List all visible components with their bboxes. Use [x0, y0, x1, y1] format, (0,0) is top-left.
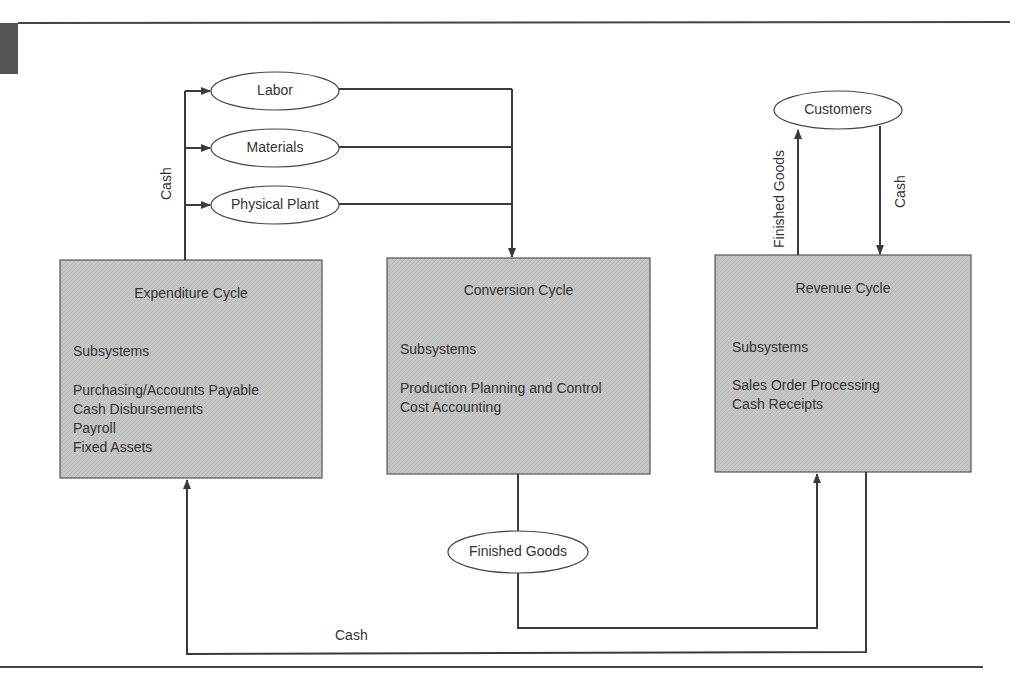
subsystem-item: Cost Accounting	[400, 398, 602, 417]
revenue-cycle-title: Revenue Cycle	[715, 280, 971, 296]
expenditure-subsystem-list: Purchasing/Accounts Payable Cash Disburs…	[73, 381, 259, 457]
customers-label: Customers	[774, 101, 902, 117]
subsystem-item: Fixed Assets	[73, 438, 259, 457]
conversion-subsystem-list: Production Planning and Control Cost Acc…	[400, 379, 602, 417]
conversion-cycle-title: Conversion Cycle	[387, 282, 650, 298]
top-rule	[18, 22, 1010, 23]
expenditure-cycle-title: Expenditure Cycle	[60, 285, 322, 301]
subsystem-item: Sales Order Processing	[732, 376, 880, 395]
subsystem-item: Payroll	[73, 419, 259, 438]
subsystem-item: Purchasing/Accounts Payable	[73, 381, 259, 400]
finished-goods-label: Finished Goods	[448, 543, 588, 559]
materials-label: Materials	[211, 139, 339, 155]
cash-from-customers-label: Cash	[892, 175, 908, 208]
revenue-subsystem-list: Sales Order Processing Cash Receipts	[732, 376, 880, 414]
subsystem-item: Cash Disbursements	[73, 400, 259, 419]
cash-bottom-label: Cash	[335, 627, 368, 643]
corner-block	[0, 23, 18, 74]
customer-flow-lines	[798, 126, 880, 255]
subsystem-item: Cash Receipts	[732, 395, 880, 414]
conversion-subsystems-heading: Subsystems	[400, 340, 476, 359]
revenue-subsystems-heading: Subsystems	[732, 338, 808, 357]
inputs-to-conversion-lines	[339, 89, 512, 257]
subsystem-item: Production Planning and Control	[400, 379, 602, 398]
expenditure-subsystems-heading: Subsystems	[73, 342, 149, 361]
labor-label: Labor	[211, 82, 339, 98]
finished-goods-vertical-label: Finished Goods	[771, 150, 787, 248]
cash-vertical-label: Cash	[158, 167, 174, 200]
physical-plant-label: Physical Plant	[211, 196, 339, 212]
cash-to-inputs-lines	[185, 91, 210, 260]
